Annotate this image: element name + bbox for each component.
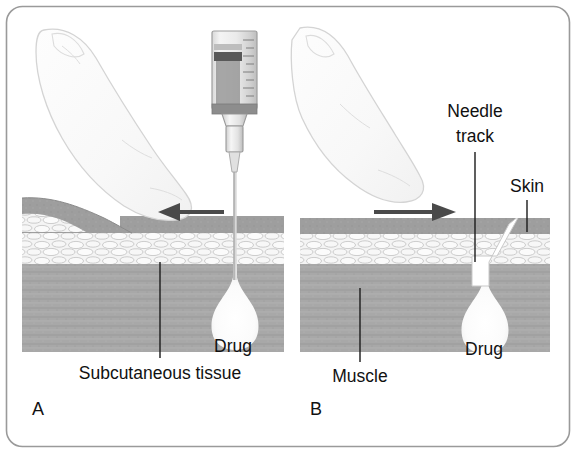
syringe-medication: [216, 60, 240, 105]
drug-label-b: Drug: [465, 339, 503, 359]
muscle-label: Muscle: [332, 366, 387, 386]
syringe-plunger-stopper: [214, 52, 242, 61]
syringe-hub: [226, 126, 243, 152]
skin-layer-a: [120, 216, 284, 233]
drug-label-a: Drug: [214, 336, 252, 356]
panel-a-letter: A: [32, 399, 44, 419]
syringe-plunger-rod: [214, 44, 242, 50]
subcutaneous-layer-b: [300, 232, 550, 264]
muscle-layer-b: [300, 262, 550, 352]
figure-canvas: Drug Subcutaneous tissue A: [0, 0, 576, 453]
needle-track-label-line1: Needle: [447, 101, 502, 121]
needle-a: [234, 172, 235, 280]
syringe-collar: [212, 104, 257, 114]
panel-b-letter: B: [310, 399, 322, 419]
subcutaneous-tissue-label: Subcutaneous tissue: [79, 363, 241, 383]
skin-label: Skin: [510, 176, 544, 196]
panel-b-tissue-layers: [300, 216, 550, 354]
subcutaneous-layer-a: [22, 232, 284, 264]
needle-track-label-line2: track: [456, 126, 494, 146]
z-track-injection-figure: Drug Subcutaneous tissue A: [0, 0, 576, 453]
panel-a-tissue-layers: [22, 198, 284, 352]
syringe-hub-taper: [222, 114, 247, 126]
